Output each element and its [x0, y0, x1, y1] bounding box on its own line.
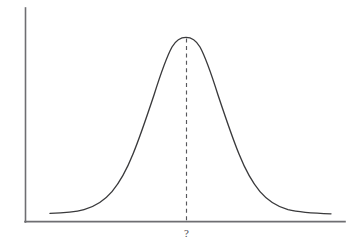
mean-question-label: ?	[184, 227, 189, 239]
bell-curve-figure: ?	[0, 0, 357, 244]
chart-canvas: ?	[0, 0, 357, 244]
normal-distribution-curve	[50, 37, 331, 213]
